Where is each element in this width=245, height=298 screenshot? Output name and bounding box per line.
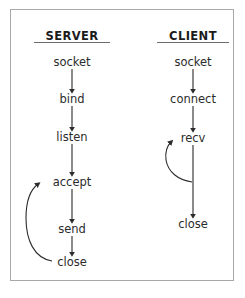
loop-arrow-server-close-accept: [26, 184, 52, 261]
loop-arrow-client-recv-recv: [166, 142, 192, 182]
flow-connectors: [0, 0, 245, 298]
socket-flow-diagram: SERVER socket bind listen accept send cl…: [0, 0, 245, 298]
